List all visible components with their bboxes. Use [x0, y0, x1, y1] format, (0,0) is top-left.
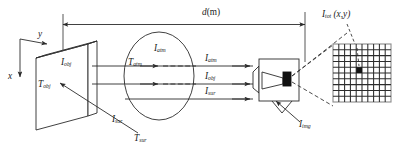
- ray-lines: [92, 66, 253, 99]
- camera-image-radiance-label: Iimg: [299, 120, 311, 130]
- surroundings-temperature-label: Tsur: [134, 134, 147, 144]
- axis-label-x: x: [8, 72, 12, 81]
- figure-canvas: y x d(m) Iobj Tobj Iatm Tatm Isur Tsur I…: [0, 0, 401, 153]
- axis-label-y: y: [38, 30, 42, 39]
- surroundings-radiance-label: Isur: [112, 115, 122, 125]
- camera-body-shape: [253, 59, 299, 113]
- ray-dashed-segments: [163, 66, 196, 84]
- pixel-grid-shape: [333, 44, 391, 102]
- incoming-ray-label-atm: Iatm: [205, 54, 217, 64]
- object-temperature-label: Tobj: [38, 80, 51, 90]
- total-radiance-label: Itot (x,y): [322, 10, 350, 20]
- distance-label: d(m): [202, 8, 220, 17]
- distance-dimension: [63, 12, 305, 62]
- ray-arrowheads: [140, 66, 250, 99]
- object-radiance-label: Iobj: [61, 58, 71, 68]
- atmosphere-radiance-label: Iatm: [154, 44, 166, 54]
- incoming-ray-label-obj: Iobj: [205, 72, 215, 82]
- incoming-ray-label-sur: Isur: [205, 87, 215, 97]
- diagram-vector-layer: [0, 0, 401, 153]
- atmosphere-transmittance-label: Tatm: [128, 58, 142, 68]
